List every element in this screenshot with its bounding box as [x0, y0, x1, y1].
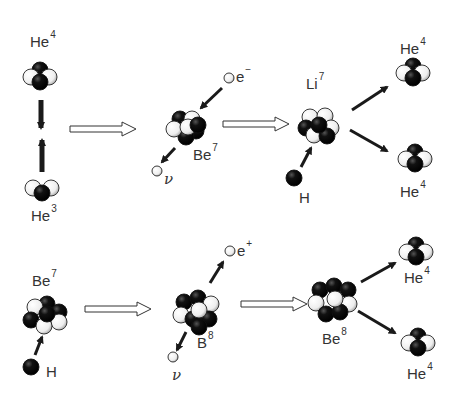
neutrino-particle: [152, 166, 162, 176]
be7-nucleus-row2: [23, 296, 67, 334]
li7-to-he4-bottom-arrow: [350, 130, 387, 151]
reaction-diagram: [0, 0, 461, 397]
he4-product-top-row2: [399, 237, 433, 265]
hydrogen-row2-label: H: [46, 364, 57, 379]
he4-top-row2-mass: 4: [424, 265, 430, 276]
process-arrow-4: [241, 297, 307, 311]
hydrogen-nucleus-row2: [23, 359, 39, 375]
he4-bottom-row2-symbol: He: [407, 365, 426, 382]
positron-particle: [225, 246, 235, 256]
neutrino-emission-arrow: [162, 148, 175, 162]
electron-label: e−: [236, 68, 251, 84]
he3-label: He3: [31, 207, 57, 223]
process-arrow-2: [223, 117, 289, 131]
b8-symbol: B: [197, 334, 207, 351]
be7-row2-symbol: Be: [32, 272, 50, 289]
he4-top-row2-symbol: He: [404, 269, 423, 286]
b8-nucleus: [173, 290, 219, 335]
he4-bottom-row2-mass: 4: [427, 361, 433, 372]
he3-nucleus: [25, 180, 59, 201]
hydrogen-to-be7-arrow: [35, 337, 42, 355]
li7-label: Li7: [306, 75, 324, 91]
be8-label: Be8: [322, 330, 347, 346]
li7-to-he4-top-arrow: [352, 87, 387, 110]
positron-symbol: e: [237, 242, 245, 259]
he4-mass: 4: [50, 29, 56, 40]
he4-bottom-label: He4: [400, 183, 426, 199]
positron-label: e+: [237, 242, 252, 258]
be8-symbol: Be: [322, 330, 340, 347]
neutrino-particle-row2: [168, 352, 178, 362]
be7-nucleus: [166, 111, 206, 145]
li7-symbol: Li: [306, 75, 318, 92]
he4-reactant-label: He4: [30, 33, 56, 49]
process-arrow-3: [85, 302, 151, 316]
he4-bottom-mass: 4: [420, 179, 426, 190]
he4-product-top: [396, 58, 430, 86]
be7-label: Be7: [193, 146, 218, 162]
he4-product-bottom-row2: [401, 328, 435, 356]
neutrino-row2-label: ν: [172, 368, 181, 383]
he4-bottom-row2-label: He4: [407, 365, 433, 381]
electron-symbol: e: [236, 68, 244, 85]
he4-symbol: He: [30, 33, 49, 50]
hydrogen-to-li7-arrow: [301, 148, 311, 167]
li7-mass: 7: [319, 71, 325, 82]
he4-top-mass: 4: [420, 36, 426, 47]
electron-charge: −: [245, 64, 251, 75]
process-arrow-1: [70, 122, 136, 136]
positron-charge: +: [246, 238, 252, 249]
be7-symbol: Be: [193, 146, 211, 163]
he3-mass: 3: [51, 203, 57, 214]
be7-row2-mass: 7: [51, 268, 57, 279]
electron-particle: [224, 73, 234, 83]
be8-to-he4-bottom-arrow: [358, 311, 395, 333]
hydrogen-label: H: [299, 190, 310, 205]
be8-mass: 8: [341, 326, 347, 337]
he4-bottom-symbol: He: [400, 183, 419, 200]
neutrino-emission-arrow-row2: [177, 332, 186, 350]
be7-row2-label: Be7: [32, 272, 57, 288]
he4-nucleus-reactant: [23, 62, 57, 90]
b8-label: B8: [197, 334, 214, 350]
he4-product-bottom: [398, 144, 432, 172]
be7-mass: 7: [212, 142, 218, 153]
he3-symbol: He: [31, 207, 50, 224]
he4-top-symbol: He: [400, 40, 419, 57]
he4-top-row2-label: He4: [404, 269, 430, 285]
neutrino-label: ν: [164, 172, 173, 187]
b8-mass: 8: [208, 330, 214, 341]
he4-top-label: He4: [400, 40, 426, 56]
li7-nucleus: [298, 108, 339, 144]
be8-nucleus: [308, 278, 357, 322]
hydrogen-nucleus: [286, 170, 302, 186]
be8-to-he4-top-arrow: [361, 263, 395, 282]
electron-capture-arrow: [201, 88, 222, 108]
positron-emission-arrow: [210, 262, 223, 283]
